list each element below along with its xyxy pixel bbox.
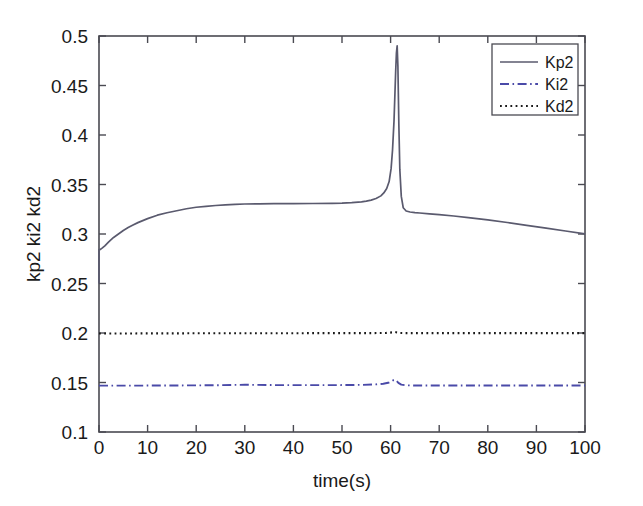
line-chart: 0102030405060708090100 0.10.150.20.250.3…: [0, 0, 643, 506]
x-tick-label: 0: [94, 437, 105, 458]
y-tick-label: 0.1: [62, 422, 88, 443]
legend[interactable]: Kp2Ki2Kd2: [492, 44, 578, 115]
x-tick-label: 60: [380, 437, 401, 458]
y-tick-label: 0.35: [51, 175, 88, 196]
legend-label-kd2: Kd2: [545, 98, 574, 115]
x-axis-title: time(s): [313, 470, 371, 491]
y-tick-label: 0.2: [62, 323, 88, 344]
x-tick-label: 10: [137, 437, 158, 458]
x-tick-label: 50: [331, 437, 352, 458]
x-tick-label: 70: [429, 437, 450, 458]
x-tick-label: 20: [186, 437, 207, 458]
y-tick-label: 0.4: [62, 125, 89, 146]
x-tick-label: 100: [569, 437, 601, 458]
x-tick-label: 40: [283, 437, 304, 458]
y-tick-label: 0.15: [51, 373, 88, 394]
y-tick-label: 0.3: [62, 224, 88, 245]
y-tick-label: 0.25: [51, 274, 88, 295]
x-tick-label: 90: [526, 437, 547, 458]
x-tick-label: 80: [477, 437, 498, 458]
figure-canvas: 0102030405060708090100 0.10.150.20.250.3…: [0, 0, 643, 506]
y-axis-title: kp2 ki2 kd2: [23, 186, 44, 282]
y-tick-label: 0.5: [62, 26, 88, 47]
legend-label-ki2: Ki2: [545, 76, 568, 93]
legend-label-kp2: Kp2: [545, 54, 574, 71]
x-tick-label: 30: [234, 437, 255, 458]
y-tick-label: 0.45: [51, 76, 88, 97]
